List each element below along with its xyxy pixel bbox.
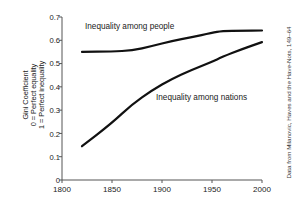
axis-lines bbox=[62, 17, 262, 180]
chart-figure: 1 = Perfect inequality 0 = Perfect equal… bbox=[0, 0, 299, 213]
series-line-inequality-among-people bbox=[82, 31, 262, 52]
series-line-inequality-among-nations bbox=[82, 42, 262, 146]
plot-area bbox=[0, 0, 299, 213]
series-lines bbox=[82, 31, 262, 147]
